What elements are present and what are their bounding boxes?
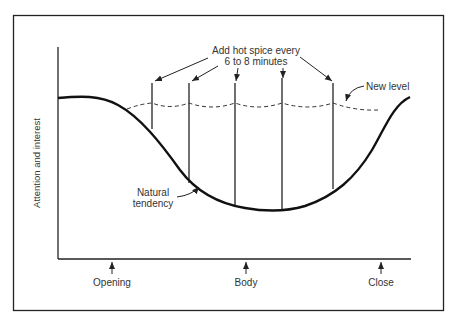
new-level-label: New level: [366, 81, 409, 92]
y-axis-label: Attention and interest: [31, 118, 42, 208]
natural-tendency-label-line1: Natural: [137, 187, 169, 198]
attention-diagram: Attention and interest Add hot spice eve…: [0, 0, 457, 325]
marker-body: Body: [235, 277, 258, 288]
marker-close: Close: [368, 277, 394, 288]
natural-tendency-arrow: [177, 187, 199, 197]
spice-annotation-line1: Add hot spice every: [212, 45, 300, 56]
natural-tendency-curve: [58, 97, 410, 211]
spice-annotation-line2: 6 to 8 minutes: [225, 56, 288, 67]
marker-opening: Opening: [93, 277, 131, 288]
new-level-curve: [127, 103, 378, 110]
x-axis-marker-arrows: [112, 262, 381, 274]
new-level-arrow: [346, 86, 364, 101]
spice-spikes: [152, 78, 333, 211]
natural-tendency-label-line2: tendency: [133, 198, 174, 209]
